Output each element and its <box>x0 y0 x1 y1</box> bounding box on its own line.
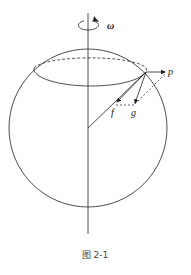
radius-line <box>88 72 146 128</box>
latitude-circle-front <box>34 68 146 86</box>
figure-caption: 图 2-1 <box>82 250 109 260</box>
diagram: ω p f g 图 2-1 <box>0 0 191 275</box>
rotation-arrow-icon <box>78 16 99 30</box>
g-label: g <box>131 107 136 118</box>
latitude-circle-back <box>34 58 147 72</box>
omega-label: ω <box>107 20 114 31</box>
f-label: f <box>111 107 115 118</box>
p-label: p <box>167 66 173 77</box>
